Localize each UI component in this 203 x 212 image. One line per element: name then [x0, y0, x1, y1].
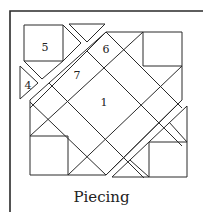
piece-label-4: 4: [23, 79, 33, 92]
frame: [10, 11, 203, 212]
piece-label-1: 1: [99, 96, 109, 109]
piece-label-7: 7: [72, 69, 82, 82]
bottom-right-group: [112, 106, 187, 177]
piece-label-6: 6: [101, 43, 111, 56]
top-triangle: [69, 24, 105, 42]
piece-label-5: 5: [40, 41, 50, 54]
caption: Piecing: [0, 188, 203, 206]
